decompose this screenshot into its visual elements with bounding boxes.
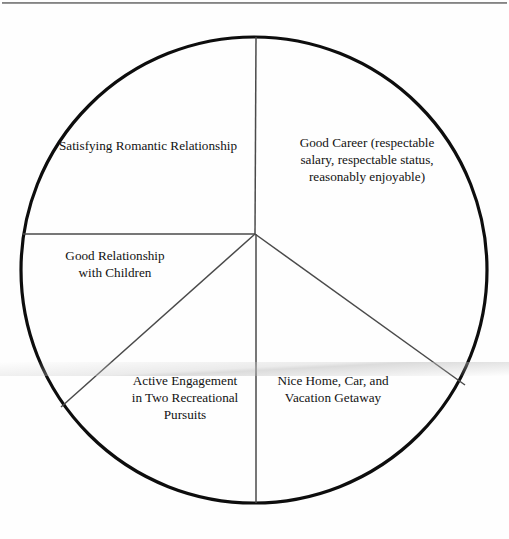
diagram-page: Satisfying Romantic Relationship Good Ca… xyxy=(0,0,509,539)
wedge-label-romantic-relationship: Satisfying Romantic Relationship xyxy=(42,138,254,155)
wedge-label-recreation: Active Engagement in Two Recreational Pu… xyxy=(112,373,258,424)
wedge-label-career: Good Career (respectable salary, respect… xyxy=(284,135,450,186)
spoke-down-right-divider xyxy=(255,234,465,385)
spoke-up-divider xyxy=(255,37,256,234)
wedge-label-children: Good Relationship with Children xyxy=(38,248,192,282)
wedge-label-home-car-vacation: Nice Home, Car, and Vacation Getaway xyxy=(262,373,404,407)
